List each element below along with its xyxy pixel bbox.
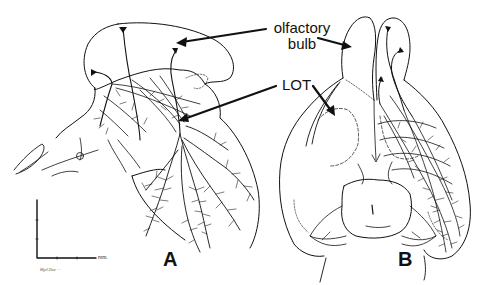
artist-signature: Myrl Dav ··· (40, 268, 61, 272)
label-bulb: bulb (257, 36, 347, 51)
label-olfactory: olfactory (257, 20, 347, 35)
label-lot: LOT (282, 77, 311, 92)
scale-unit-label: mm. (98, 255, 108, 260)
panel-b-drawing (280, 17, 471, 282)
panel-label-b: B (398, 249, 412, 269)
panel-a-drawing (14, 23, 259, 252)
panel-label-a: A (163, 249, 177, 269)
arrow-lot-a (184, 86, 276, 119)
figure: olfactory bulb LOT A B mm. Myrl Dav ··· (0, 0, 486, 285)
scale-bar (36, 200, 96, 259)
anatomical-drawing (0, 0, 486, 285)
